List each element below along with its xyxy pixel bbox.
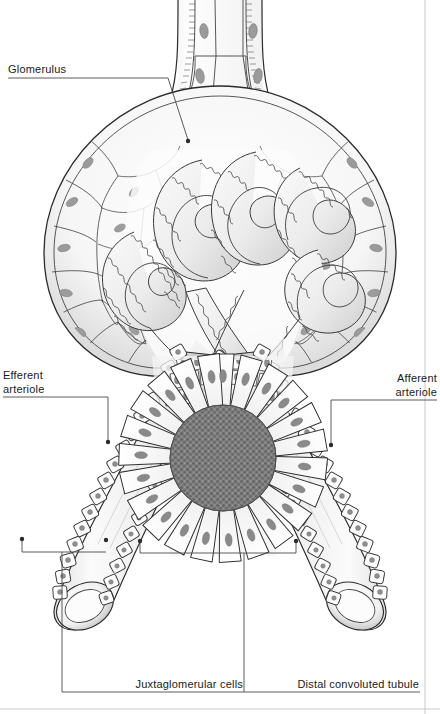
bowmans-capsule (44, 86, 396, 376)
label-efferent-arteriole-line2: arteriole (3, 383, 45, 395)
label-distal-convoluted-tubule: Distal convoluted tubule (297, 678, 419, 690)
dct-bracket-dot-right (294, 539, 298, 543)
label-efferent-arteriole-line1: Efferent (3, 369, 43, 381)
glomerulus-pointer-dot (186, 139, 190, 143)
jg-bracket-dot-right (104, 538, 108, 542)
dct-bracket-dot-left (138, 539, 142, 543)
label-afferent-arteriole-line2: arteriole (395, 386, 437, 398)
jg-bracket-dot-left (20, 537, 24, 541)
label-glomerulus: Glomerulus (8, 63, 67, 75)
label-juxtaglomerular-cells: Juxtaglomerular cells (135, 678, 243, 690)
anatomy-figure: Glomerulus Efferent arteriole Afferent a… (0, 0, 440, 714)
afferent-pointer-dot (329, 443, 333, 447)
efferent-pointer-dot (106, 440, 110, 444)
label-afferent-arteriole-line1: Afferent (397, 372, 437, 384)
